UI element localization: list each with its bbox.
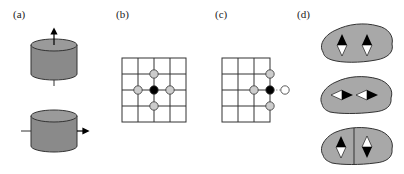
center-site-icon: [150, 86, 158, 94]
neighbor-site-icon: [266, 70, 274, 78]
center-site-icon: [266, 86, 274, 94]
neighbor-site-icon: [134, 86, 142, 94]
lattice-bulk-sites: [134, 70, 174, 110]
grain-parallel-vertical: [321, 24, 392, 62]
neighbor-site-icon: [250, 86, 258, 94]
lattice-edge-sites: [250, 70, 289, 110]
figure-canvas: [0, 0, 404, 174]
cylinder-horizontal-magnetization: [21, 110, 86, 152]
grain-horizontal: [321, 77, 392, 114]
neighbor-site-icon: [266, 102, 274, 110]
neighbor-site-icon: [166, 86, 174, 94]
neighbor-site-icon: [150, 102, 158, 110]
missing-site-icon: [281, 86, 289, 94]
neighbor-site-icon: [150, 70, 158, 78]
grain-antiparallel-boundary: [321, 128, 392, 165]
cylinder-vertical-magnetization: [31, 31, 77, 86]
